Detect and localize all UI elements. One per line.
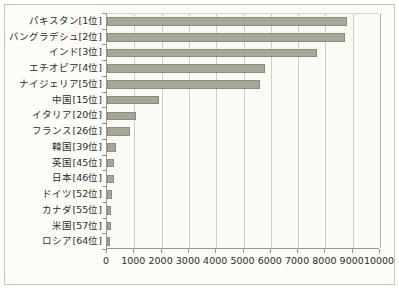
category-label: ドイツ[52位]	[42, 186, 102, 202]
value-tick-label: 8000	[312, 255, 336, 266]
category-label: 韓国[39位]	[52, 139, 102, 155]
value-tick	[188, 249, 189, 253]
value-tick	[215, 249, 216, 253]
category-tick	[102, 76, 106, 77]
chart-frame: パキスタン[1位]バングラデシュ[2位]インド[3位]エチオピア[4位]ナイジェ…	[4, 4, 395, 285]
bar	[107, 159, 114, 168]
bar	[107, 222, 111, 231]
bar-row	[107, 93, 379, 109]
bar-row	[107, 219, 379, 235]
value-tick-label: 4000	[203, 255, 227, 266]
bar	[107, 190, 112, 199]
category-label: 中国[15位]	[52, 92, 102, 108]
bar	[107, 17, 347, 26]
category-tick	[102, 233, 106, 234]
category-axis-labels: パキスタン[1位]バングラデシュ[2位]インド[3位]エチオピア[4位]ナイジェ…	[5, 13, 105, 249]
bar	[107, 112, 136, 121]
bar-row	[107, 14, 379, 30]
bar-row	[107, 45, 379, 61]
bar-row	[107, 108, 379, 124]
value-tick	[297, 249, 298, 253]
category-label: バングラデシュ[2位]	[9, 29, 102, 45]
value-tick-label: 10000	[364, 255, 394, 266]
value-tick	[270, 249, 271, 253]
category-label: パキスタン[1位]	[29, 13, 102, 29]
bar-row	[107, 171, 379, 187]
value-tick	[379, 249, 380, 253]
bar-row	[107, 30, 379, 46]
bar-row	[107, 187, 379, 203]
category-label: 日本[46位]	[52, 170, 102, 186]
category-label: エチオピア[4位]	[29, 60, 102, 76]
category-tick	[102, 186, 106, 187]
value-tick-label: 7000	[285, 255, 309, 266]
category-tick	[102, 44, 106, 45]
bar	[107, 96, 159, 105]
category-tick	[102, 202, 106, 203]
bar	[107, 206, 111, 215]
category-label: 英国[45位]	[52, 155, 102, 171]
value-tick	[161, 249, 162, 253]
category-label: カナダ[55位]	[42, 202, 102, 218]
category-tick	[102, 139, 106, 140]
category-tick	[102, 13, 106, 14]
bar-row	[107, 61, 379, 77]
bar-row	[107, 156, 379, 172]
category-label: 米国[57位]	[52, 218, 102, 234]
bar-series	[107, 14, 379, 248]
category-label: フランス[26位]	[32, 123, 102, 139]
gridline	[380, 14, 381, 248]
value-tick-label: 0	[103, 255, 109, 266]
category-tick	[102, 218, 106, 219]
category-tick	[102, 170, 106, 171]
value-tick-label: 5000	[230, 255, 254, 266]
category-label: ロシア[64位]	[42, 233, 102, 249]
bar	[107, 49, 317, 58]
value-tick-label: 2000	[149, 255, 173, 266]
category-tick	[102, 123, 106, 124]
bar	[107, 237, 110, 246]
plot-area	[106, 13, 379, 249]
value-tick	[106, 249, 107, 253]
value-tick	[352, 249, 353, 253]
category-label: インド[3位]	[49, 44, 102, 60]
bar	[107, 33, 345, 42]
category-tick	[102, 107, 106, 108]
category-label: ナイジェリア[5位]	[19, 76, 102, 92]
value-tick-label: 1000	[121, 255, 145, 266]
bar-row	[107, 203, 379, 219]
category-tick	[102, 249, 106, 250]
bar	[107, 127, 130, 136]
category-tick	[102, 92, 106, 93]
category-tick	[102, 155, 106, 156]
bar	[107, 143, 116, 152]
bar	[107, 175, 114, 184]
value-tick-label: 6000	[258, 255, 282, 266]
bar-row	[107, 124, 379, 140]
value-tick-label: 9000	[340, 255, 364, 266]
category-label: イタリア[20位]	[32, 107, 102, 123]
category-tick	[102, 60, 106, 61]
bar-row	[107, 234, 379, 250]
bar-row	[107, 140, 379, 156]
value-tick	[324, 249, 325, 253]
bar-row	[107, 77, 379, 93]
value-tick-label: 3000	[176, 255, 200, 266]
bar	[107, 80, 260, 89]
value-tick	[133, 249, 134, 253]
category-tick	[102, 29, 106, 30]
value-tick	[243, 249, 244, 253]
bar	[107, 64, 265, 73]
